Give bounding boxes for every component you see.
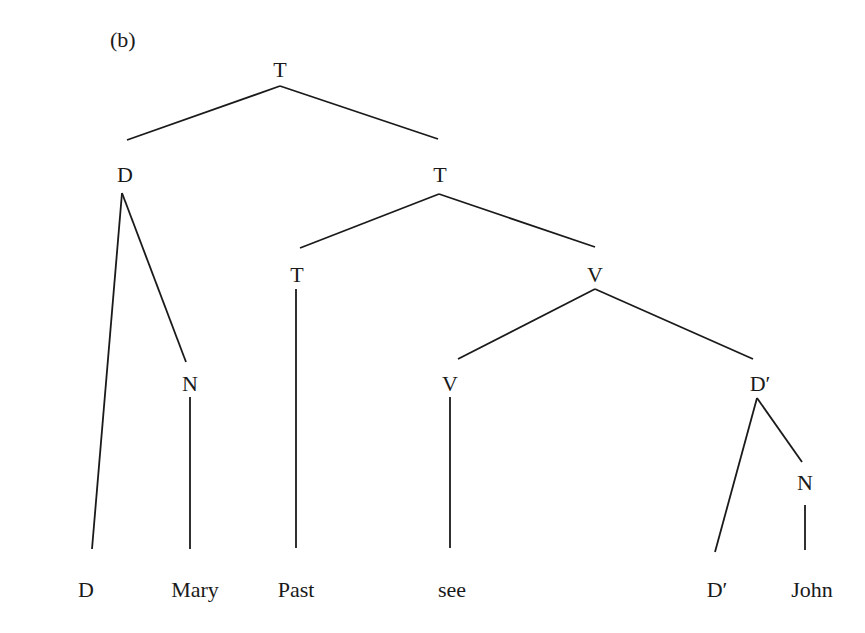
tree-node-Dprime1: D′ xyxy=(750,373,771,395)
tree-edge xyxy=(127,86,280,140)
tree-node-leaf-Dprime: D′ xyxy=(707,579,728,601)
tree-edge xyxy=(458,289,595,359)
tree-edge xyxy=(122,193,186,362)
tree-node-root-T: T xyxy=(273,59,286,81)
tree-node-leaf-D: D xyxy=(78,579,94,601)
tree-node-leaf-Mary: Mary xyxy=(171,579,219,601)
tree-node-leaf-Past: Past xyxy=(278,579,315,601)
tree-node-leaf-see: see xyxy=(438,579,466,601)
tree-edge xyxy=(300,194,439,248)
tree-node-V1: V xyxy=(587,264,603,286)
tree-edge xyxy=(280,86,438,139)
tree-edge xyxy=(92,193,122,549)
tree-node-N1: N xyxy=(182,373,198,395)
tree-edge xyxy=(757,398,802,462)
tree-node-T3: T xyxy=(290,264,303,286)
tree-node-D: D xyxy=(117,164,133,186)
tree-node-V2: V xyxy=(442,373,458,395)
tree-node-T2: T xyxy=(433,164,446,186)
tree-edge xyxy=(715,398,757,552)
tree-edge xyxy=(595,289,753,359)
tree-edges xyxy=(0,0,865,633)
tree-node-N2: N xyxy=(797,472,813,494)
tree-node-leaf-John: John xyxy=(791,579,833,601)
tree-edge xyxy=(439,194,595,247)
